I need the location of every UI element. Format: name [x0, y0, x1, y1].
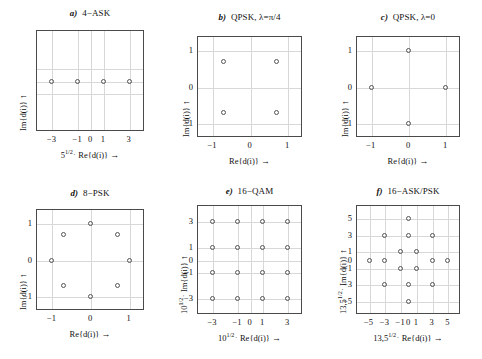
xtick-label-f: 3: [430, 317, 434, 327]
constellation-point: [382, 282, 387, 287]
constellation-point: [406, 299, 411, 304]
constellation-point: [398, 266, 403, 271]
constellation-point: [414, 249, 419, 254]
constellation-point: [445, 258, 450, 263]
panel-title-text-f: 16−ASK/PSK: [387, 186, 439, 196]
constellation-point: [382, 258, 387, 263]
constellation-point: [367, 258, 372, 263]
constellation-point: [398, 249, 403, 254]
xtick-label-f: −5: [364, 317, 373, 327]
gridline-y-f: [357, 252, 459, 253]
panel-letter-f: f): [377, 186, 383, 196]
xaxis-label-f: 13,51/2· Re{d(i)} →: [322, 333, 482, 343]
ytick-label-f: 5: [338, 213, 352, 223]
xtick-label-f: 0: [406, 317, 410, 327]
panel-f: f) 16−ASK/PSK−5−3−10135−5−3−1013513,51/2…: [0, 0, 482, 359]
ytick-label-f: 3: [338, 230, 352, 240]
constellation-point: [430, 258, 435, 263]
constellation-point: [406, 216, 411, 221]
xtick-label-f: −3: [380, 317, 389, 327]
constellation-figure: a) 4−ASK−3−101351/2· Re{d(i)} →Im{d(i)} …: [0, 0, 482, 359]
gridline-x-f: [401, 206, 402, 313]
constellation-point: [414, 266, 419, 271]
xtick-label-f: 5: [445, 317, 449, 327]
constellation-point: [406, 233, 411, 238]
yaxis-label-f: 13,51/2· Im{d(i)} ↑: [338, 249, 348, 314]
plot-area-f: [356, 205, 460, 314]
panel-title-f: f) 16−ASK/PSK: [326, 186, 482, 196]
constellation-point: [430, 233, 435, 238]
constellation-point: [430, 282, 435, 287]
gridline-y-f: [357, 269, 459, 270]
xtick-label-f: −1: [396, 317, 405, 327]
gridline-x-f: [417, 206, 418, 313]
constellation-point: [406, 282, 411, 287]
xtick-label-f: 1: [414, 317, 418, 327]
